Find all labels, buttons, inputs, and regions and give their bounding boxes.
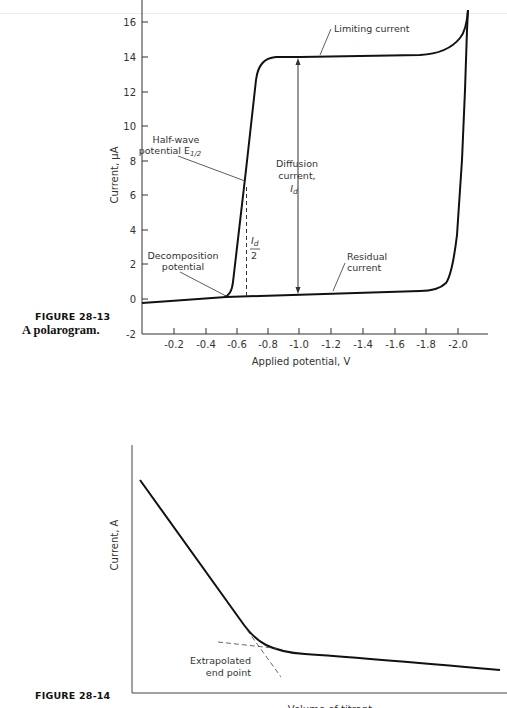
y-tick-label: -2 xyxy=(126,329,136,340)
y-tick-label: 14 xyxy=(123,52,136,63)
y-tick-label: 0 xyxy=(130,294,136,305)
x-tick-label: -2.0 xyxy=(448,339,468,350)
y-tick-label: 8 xyxy=(130,156,136,167)
diffusion-label-line2: current, xyxy=(278,170,315,181)
halfwave-leader xyxy=(178,156,245,181)
decomposition-label-line2: potential xyxy=(162,261,204,272)
x-tick-label: -0.2 xyxy=(164,339,184,350)
halfwave-label-line1: Half-wave xyxy=(153,134,200,145)
x-tick-label: -1.8 xyxy=(416,339,436,350)
endpoint-label-line1: Extrapolated xyxy=(190,655,251,666)
titration-curve xyxy=(140,480,500,670)
extrapolation-line-diagonal xyxy=(247,630,281,677)
y-axis-title: Current, μA xyxy=(109,146,120,203)
arrowhead-up-icon xyxy=(296,58,301,65)
halfwave-label-line2: potential E1/2 xyxy=(139,145,202,158)
decomposition-leader xyxy=(180,272,226,296)
diffusion-label-line1: Diffusion xyxy=(276,158,318,169)
x-tick-label: -1.0 xyxy=(289,339,309,350)
x-tick-label: -0.4 xyxy=(196,339,216,350)
half-id-subscript: d xyxy=(254,239,259,248)
limiting-current-label: Limiting current xyxy=(334,23,410,34)
diffusion-label-line3: Id xyxy=(290,183,298,196)
figure-28-13-number: FIGURE 28-13 xyxy=(35,311,110,322)
y-tick-labels: 16 14 12 10 8 6 4 2 0 -2 xyxy=(123,17,136,340)
y-tick-label: 2 xyxy=(130,259,136,270)
x-axis-title: Volume of titrant xyxy=(288,704,372,708)
half-id-denominator: 2 xyxy=(251,250,257,261)
halfwave-label-text: potential E xyxy=(139,145,190,156)
x-axis-title: Applied potential, V xyxy=(252,356,351,367)
x-tick-labels: -0.2 -0.4 -0.6 -0.8 -1.0 -1.2 -1.4 -1.6 … xyxy=(164,339,468,350)
residual-label-line2: current xyxy=(347,262,382,273)
diffusion-subscript: d xyxy=(293,187,298,196)
limiting-current-leader xyxy=(320,29,331,55)
endpoint-label-line2: end point xyxy=(206,667,251,678)
y-tick-label: 10 xyxy=(123,121,136,132)
y-tick-label: 6 xyxy=(130,190,136,201)
arrowhead-down-icon xyxy=(296,287,301,294)
residual-label-line1: Residual xyxy=(347,251,387,262)
figures-canvas: 16 14 12 10 8 6 4 2 0 -2 -0.2 -0.4 xyxy=(0,0,507,708)
figure-28-14-number: FIGURE 28-14 xyxy=(35,690,110,701)
x-tick-label: -1.4 xyxy=(353,339,373,350)
y-axis-title: Current, A xyxy=(109,519,120,570)
x-tick-label: -0.6 xyxy=(227,339,247,350)
half-id-numerator: Id xyxy=(251,235,259,248)
polarogram-wave-curve xyxy=(224,10,468,297)
x-ticks xyxy=(174,328,458,334)
y-tick-label: 16 xyxy=(123,17,136,28)
halfwave-subscript: 1/2 xyxy=(190,150,202,158)
decomposition-label-line1: Decomposition xyxy=(147,250,218,261)
x-tick-label: -1.2 xyxy=(321,339,341,350)
figure-28-13-caption: A polarogram. xyxy=(22,323,100,338)
x-tick-label: -1.6 xyxy=(385,339,405,350)
y-tick-label: 4 xyxy=(130,225,136,236)
polarogram-chart: 16 14 12 10 8 6 4 2 0 -2 -0.2 -0.4 xyxy=(109,0,488,367)
x-tick-label: -0.8 xyxy=(258,339,278,350)
titration-chart: Current, A Volume of titrant Extrapolate… xyxy=(109,445,507,708)
y-tick-label: 12 xyxy=(123,87,136,98)
residual-current-leader xyxy=(333,263,345,291)
